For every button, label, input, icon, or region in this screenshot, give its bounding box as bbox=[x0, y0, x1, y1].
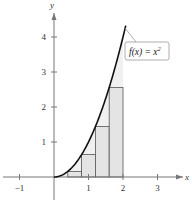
riemann-rectangles bbox=[54, 37, 123, 177]
function-label: f(x) = x2 bbox=[129, 45, 162, 58]
x-axis-arrow-icon bbox=[176, 175, 183, 180]
x-tick-label: 2 bbox=[121, 183, 126, 193]
riemann-rectangle bbox=[82, 155, 96, 177]
callout-leader bbox=[125, 28, 136, 42]
x-tick-label: 1 bbox=[86, 183, 91, 193]
riemann-rectangle bbox=[95, 127, 109, 177]
x-axis-label: x bbox=[184, 172, 189, 182]
function-callout: f(x) = x2 bbox=[125, 28, 169, 60]
x-tick-label: 3 bbox=[155, 183, 160, 193]
y-axis-arrow-icon bbox=[52, 13, 57, 20]
y-axis-label: y bbox=[49, 0, 54, 10]
riemann-rectangle bbox=[68, 171, 82, 177]
riemann-sum-chart: −11231234 x y f(x) = x2 bbox=[0, 0, 192, 207]
y-tick-label: 1 bbox=[42, 137, 47, 147]
riemann-rectangle bbox=[109, 87, 123, 177]
x-tick-label: −1 bbox=[15, 183, 25, 193]
y-tick-label: 4 bbox=[42, 32, 47, 42]
y-tick-label: 2 bbox=[42, 102, 47, 112]
y-tick-label: 3 bbox=[42, 67, 47, 77]
